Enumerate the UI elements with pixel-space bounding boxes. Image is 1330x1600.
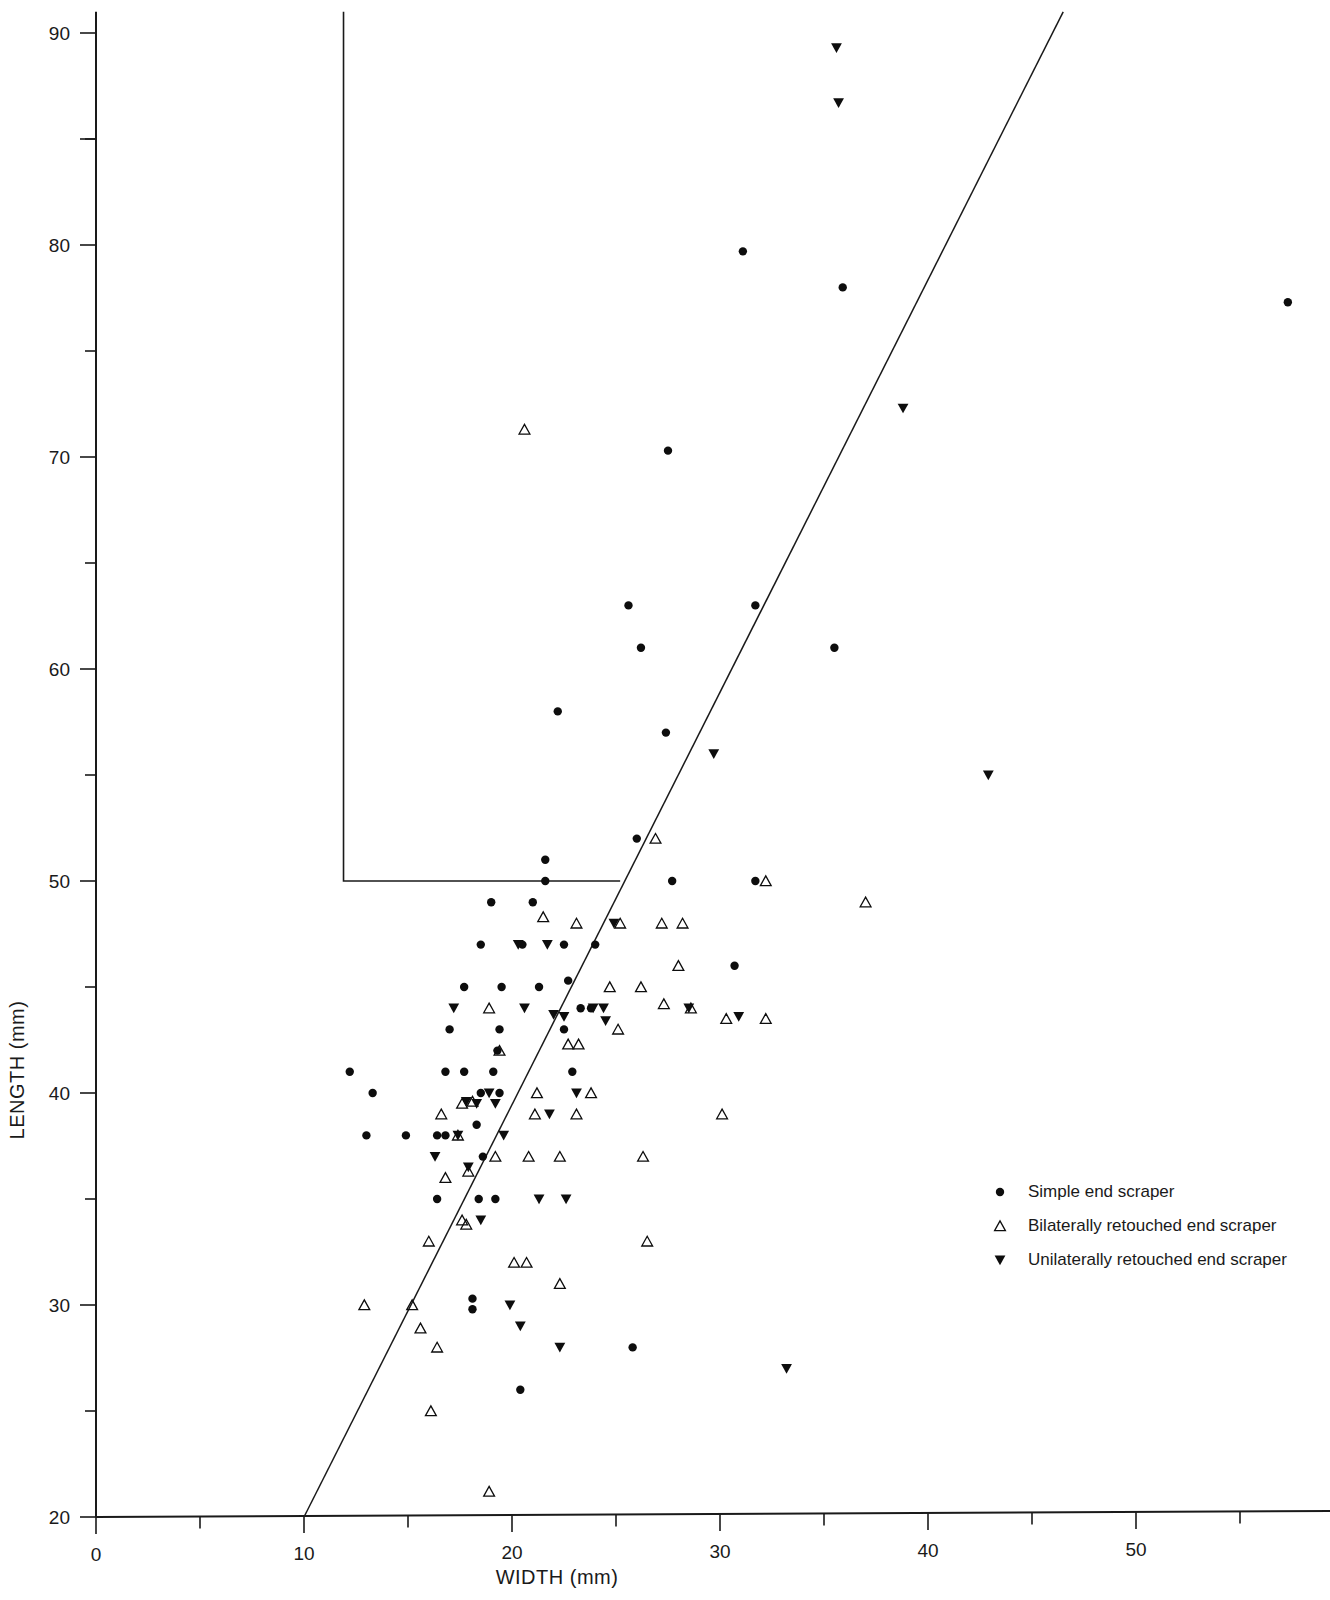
data-point (362, 1131, 370, 1139)
data-point (544, 1110, 555, 1120)
data-point (484, 1088, 495, 1098)
data-point (448, 1004, 459, 1014)
data-point (436, 1109, 447, 1119)
data-point (860, 897, 871, 907)
data-point (554, 1343, 565, 1353)
data-point (677, 918, 688, 928)
data-point (484, 1003, 495, 1013)
data-point (683, 1004, 694, 1014)
data-point (541, 856, 549, 864)
data-point (571, 1109, 582, 1119)
data-point (490, 1151, 501, 1161)
data-point (613, 1024, 624, 1034)
data-point (430, 1152, 441, 1162)
data-point (668, 877, 676, 885)
data-point (563, 1039, 574, 1049)
data-point (529, 898, 537, 906)
data-point (664, 446, 672, 454)
legend-marker-icon (995, 1221, 1006, 1231)
data-point (521, 1257, 532, 1267)
legend-label: Unilaterally retouched end scraper (1028, 1250, 1287, 1269)
data-point (564, 976, 572, 984)
data-point (628, 1343, 636, 1351)
data-point (495, 1089, 503, 1097)
data-point (571, 1088, 582, 1098)
data-point (538, 912, 549, 922)
legend-label: Bilaterally retouched end scraper (1028, 1216, 1277, 1235)
y-axis-title: LENGTH (mm) (6, 1001, 28, 1140)
series-1 (359, 424, 871, 1496)
data-point (475, 1216, 486, 1226)
data-point (568, 1068, 576, 1076)
y-tick-label: 50 (49, 871, 70, 892)
y-tick-label: 30 (49, 1295, 70, 1316)
data-point (733, 1012, 744, 1022)
data-points-group (346, 43, 1292, 1496)
data-point (477, 1089, 485, 1097)
data-point (636, 982, 647, 992)
data-point (402, 1131, 410, 1139)
data-point (656, 918, 667, 928)
data-point (650, 833, 661, 843)
data-point (509, 1257, 520, 1267)
legend-marker-icon (996, 1188, 1004, 1196)
data-point (633, 834, 641, 842)
data-point (498, 1131, 509, 1141)
data-point (642, 1236, 653, 1246)
data-point (604, 982, 615, 992)
data-point (515, 1322, 526, 1332)
data-point (830, 644, 838, 652)
data-point (554, 1151, 565, 1161)
legend-label: Simple end scraper (1028, 1182, 1175, 1201)
data-point (662, 728, 670, 736)
data-point (781, 1364, 792, 1374)
data-point (468, 1294, 476, 1302)
data-point (468, 1305, 476, 1313)
data-point (346, 1068, 354, 1076)
legend-marker-icon (995, 1255, 1006, 1265)
data-point (739, 247, 747, 255)
data-point (560, 940, 568, 948)
data-point (831, 43, 842, 53)
regression-line (304, 12, 1063, 1517)
data-point (487, 898, 495, 906)
data-point (519, 1004, 530, 1014)
data-point (760, 1014, 771, 1024)
data-point (624, 601, 632, 609)
y-tick-label: 60 (49, 659, 70, 680)
data-point (505, 1300, 516, 1310)
data-point (519, 424, 530, 434)
data-point (441, 1068, 449, 1076)
data-point (560, 1025, 568, 1033)
regression-line (304, 12, 1063, 1517)
data-point (561, 1194, 572, 1204)
data-point (591, 940, 599, 948)
data-point (460, 983, 468, 991)
data-point (425, 1406, 436, 1416)
data-point (432, 1342, 443, 1352)
data-point (532, 1088, 543, 1098)
data-point (600, 1016, 611, 1026)
data-point (638, 1151, 649, 1161)
data-point (751, 877, 759, 885)
y-tick-label: 20 (49, 1507, 70, 1528)
data-point (1284, 298, 1292, 306)
data-point (523, 1151, 534, 1161)
data-point (554, 707, 562, 715)
data-point (472, 1121, 480, 1129)
data-point (751, 601, 759, 609)
data-point (368, 1089, 376, 1097)
data-point (717, 1109, 728, 1119)
data-point (516, 1386, 524, 1394)
chart-canvas: 203040506070809001020304050 Simple end s… (0, 0, 1330, 1600)
x-tick-label: 50 (1125, 1539, 1146, 1560)
data-point (673, 961, 684, 971)
data-point (535, 983, 543, 991)
legend-item: Bilaterally retouched end scraper (995, 1216, 1277, 1235)
annotation-lines-group (344, 12, 621, 881)
data-point (730, 962, 738, 970)
data-point (460, 1068, 468, 1076)
data-point (415, 1323, 426, 1333)
data-point (576, 1004, 584, 1012)
data-point (471, 1099, 482, 1109)
